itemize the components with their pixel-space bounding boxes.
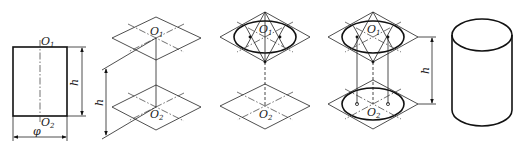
label-o2: O2: [367, 106, 381, 120]
panel-step-axes: h O1 O2: [93, 17, 201, 139]
label-h: h: [93, 99, 106, 106]
label-h: h: [68, 79, 81, 86]
label-o2: O2: [259, 108, 273, 122]
label-o2: O2: [41, 116, 55, 130]
label-o1: O1: [150, 25, 164, 39]
bottom-rhombus: [220, 84, 310, 129]
panel-front-view: O1 O2 h φ: [13, 35, 86, 141]
label-o1: O1: [41, 35, 55, 49]
cylinder-bottom-arc: [452, 110, 512, 126]
label-o1: O1: [259, 23, 273, 37]
label-h: h: [419, 67, 432, 74]
cylinder-top-ellipse: [452, 19, 512, 51]
label-o1: O1: [367, 23, 381, 37]
panel-step-bottom-ellipse: h O1 O2: [328, 12, 436, 129]
panel-step-top-ellipse: O1 O2: [220, 12, 310, 129]
label-phi: φ: [33, 125, 41, 138]
panel-finished-cylinder: [452, 19, 512, 126]
cylinder-isometric-diagram: O1 O2 h φ h O1 O2: [0, 0, 526, 147]
